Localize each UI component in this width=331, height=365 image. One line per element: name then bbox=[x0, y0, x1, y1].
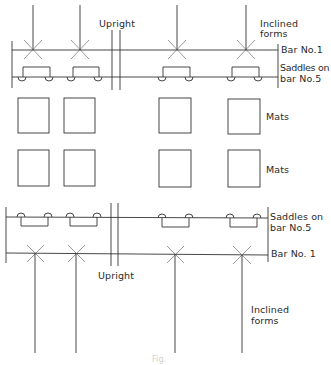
top-upright bbox=[112, 30, 120, 90]
top-upright-label: Upright bbox=[99, 19, 135, 30]
bottom-inclined-forms-label-line2: forms bbox=[251, 316, 279, 327]
bottom-saddles-label-line2: bar No.5 bbox=[270, 223, 311, 234]
top-cross-marks bbox=[24, 40, 255, 59]
bottom-inclined-forms bbox=[35, 253, 242, 353]
top-inclined-forms bbox=[33, 5, 246, 50]
bottom-bar-no1 bbox=[6, 253, 268, 255]
mats-grid bbox=[18, 98, 260, 187]
bottom-upright bbox=[111, 203, 118, 266]
bottom-assembly bbox=[6, 203, 268, 353]
diagram-canvas: Upright Inclined forms Bar No.1 Saddles … bbox=[0, 0, 331, 365]
mats-row2-label: Mats bbox=[266, 165, 289, 176]
bottom-bar-no1-label: Bar No. 1 bbox=[271, 249, 316, 260]
figure-caption: Fig. bbox=[152, 355, 166, 365]
top-saddles-label-line2: bar No.5 bbox=[280, 74, 321, 85]
bottom-upright-label: Upright bbox=[98, 271, 134, 282]
bottom-saddles-label-line1: Saddles on bbox=[270, 212, 323, 223]
mats-row1-label: Mats bbox=[266, 112, 289, 123]
top-inclined-forms-label-line2: forms bbox=[260, 29, 288, 40]
top-assembly bbox=[12, 5, 278, 90]
bottom-bar-no5 bbox=[6, 217, 268, 218]
top-saddles bbox=[18, 67, 262, 81]
bottom-inclined-forms-label-line1: Inclined bbox=[251, 305, 289, 316]
top-bar-no1-label: Bar No.1 bbox=[281, 45, 323, 56]
bottom-saddles bbox=[17, 213, 261, 227]
top-saddles-label-line1: Saddles on bbox=[280, 63, 329, 74]
